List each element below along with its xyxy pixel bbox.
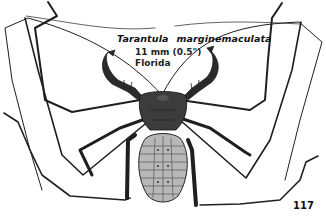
genus-label: Tarantula	[117, 33, 169, 44]
size-label: 11 mm (0.5")	[135, 47, 201, 57]
illustration-page: Tarantulamarginemaculata 11 mm (0.5") Fl…	[0, 0, 326, 217]
species-label: marginemaculata	[177, 33, 272, 44]
species-name: Tarantulamarginemaculata	[117, 33, 272, 44]
locality-label: Florida	[135, 58, 170, 68]
page-number: 117	[293, 200, 314, 211]
